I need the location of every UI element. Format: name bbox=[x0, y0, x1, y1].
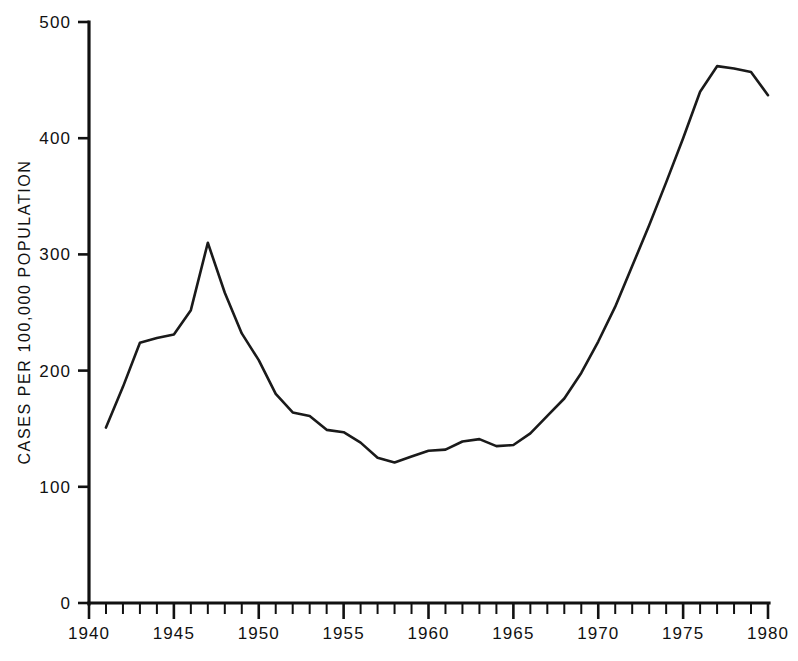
x-tick-label: 1950 bbox=[238, 624, 280, 643]
x-tick-label: 1960 bbox=[407, 624, 449, 643]
y-tick-label: 400 bbox=[39, 129, 71, 148]
x-tick-label: 1965 bbox=[492, 624, 534, 643]
y-axis-ticks bbox=[78, 22, 89, 603]
x-tick-label: 1940 bbox=[68, 624, 110, 643]
line-chart: 0100200300400500 19401945195019551960196… bbox=[0, 0, 798, 661]
chart-figure: 0100200300400500 19401945195019551960196… bbox=[0, 0, 798, 661]
y-tick-label: 100 bbox=[39, 478, 71, 497]
data-series-line bbox=[106, 66, 768, 462]
y-tick-label: 200 bbox=[39, 362, 71, 381]
x-tick-label: 1945 bbox=[153, 624, 195, 643]
y-axis-group: 0100200300400500 bbox=[39, 13, 89, 613]
x-axis-tick-labels: 194019451950195519601965197019751980 bbox=[68, 624, 789, 643]
x-tick-label: 1975 bbox=[662, 624, 704, 643]
y-tick-label: 0 bbox=[60, 594, 71, 613]
x-axis-group: 194019451950195519601965197019751980 bbox=[68, 603, 789, 643]
y-axis-title: CASES PER 100,000 POPULATION bbox=[16, 159, 33, 464]
y-axis-tick-labels: 0100200300400500 bbox=[39, 13, 71, 613]
y-tick-label: 300 bbox=[39, 245, 71, 264]
y-tick-label: 500 bbox=[39, 13, 71, 32]
x-tick-label: 1980 bbox=[747, 624, 789, 643]
x-tick-label: 1970 bbox=[577, 624, 619, 643]
x-tick-label: 1955 bbox=[323, 624, 365, 643]
